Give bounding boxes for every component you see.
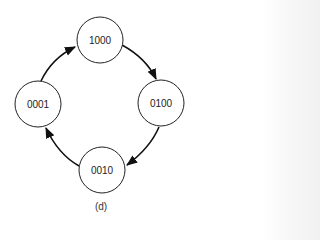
edge-0100-to-0010 <box>127 127 159 165</box>
figure-caption: (d) <box>95 201 107 212</box>
node-label: 1000 <box>89 35 112 46</box>
edge-0010-to-0001 <box>46 128 79 166</box>
state-diagram: 1000 0100 0010 0001 (d) <box>0 0 195 219</box>
node-label: 0001 <box>27 99 50 110</box>
state-node-0001: 0001 <box>15 81 61 127</box>
edge-0001-to-1000 <box>41 47 75 81</box>
state-node-0100: 0100 <box>138 80 184 126</box>
state-node-1000: 1000 <box>77 17 123 63</box>
node-label: 0100 <box>150 98 173 109</box>
node-label: 0010 <box>91 165 114 176</box>
edge-1000-to-0100 <box>122 45 156 79</box>
state-node-0010: 0010 <box>79 147 125 193</box>
